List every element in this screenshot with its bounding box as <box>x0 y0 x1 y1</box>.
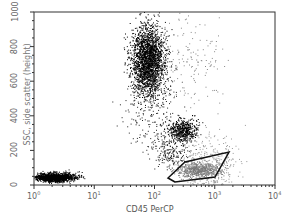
y-tick-label: 400 <box>10 108 19 123</box>
x-axis-label: CD45 PerCP <box>126 205 174 214</box>
y-tick-label: 600 <box>10 73 19 88</box>
x-tick-label: 104 <box>268 190 281 201</box>
x-tick-label: 100 <box>27 190 40 201</box>
x-tick-label: 102 <box>148 190 161 201</box>
y-axis-label: SSC, side scatter (height) <box>23 40 32 150</box>
y-tick-label: 200 <box>10 142 19 157</box>
x-tick-label: 103 <box>208 190 221 201</box>
data-points <box>35 12 248 186</box>
y-tick-label: 1000 <box>10 1 19 21</box>
scatter-plot <box>0 0 291 224</box>
y-tick-label: 800 <box>10 38 19 53</box>
y-tick-label: 0 <box>10 182 19 187</box>
x-tick-label: 101 <box>87 190 100 201</box>
